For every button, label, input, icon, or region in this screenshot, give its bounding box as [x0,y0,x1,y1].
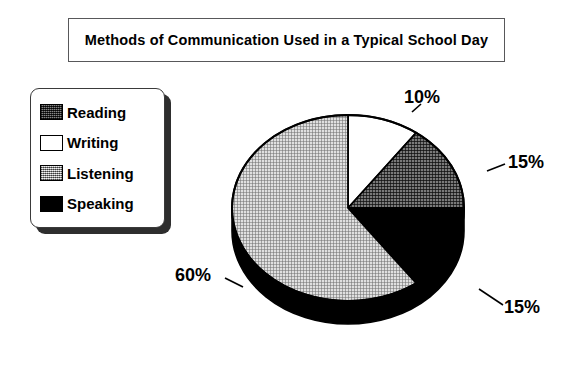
slice-label-listening: 60% [175,266,211,284]
slice-label-speaking: 15% [504,298,540,316]
pie-chart-graphic [0,0,573,366]
slice-label-writing: 10% [404,88,440,106]
pie-chart-figure: Methods of Communication Used in a Typic… [0,0,573,366]
slice-label-reading: 15% [508,153,544,171]
